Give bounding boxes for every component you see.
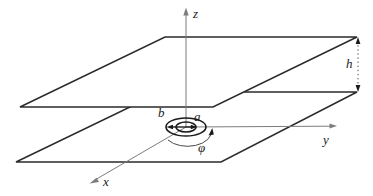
azimuth-angle-label: φ [198,140,205,155]
y-axis-label: y [321,132,329,147]
dimension-arrow-down-icon [356,85,361,92]
z-axis-arrow-icon [183,8,188,16]
inner-radius-label: a [194,109,201,124]
y-axis-arrow-icon [330,124,338,129]
z-axis-label: z [192,6,198,21]
parallel-plates-figure: h z y x φ [0,0,373,196]
diagram-canvas: h z y x φ [0,0,373,196]
outer-radius-label: b [158,105,165,120]
x-axis-label: x [102,174,109,189]
plate-separation-dimension: h [346,37,360,92]
plate-separation-label: h [346,56,353,71]
